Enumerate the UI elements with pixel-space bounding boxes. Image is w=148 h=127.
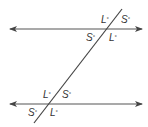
angle-label-top-upper-left: L° [101, 15, 109, 25]
angle-label-top-lower-right: L° [109, 33, 117, 43]
transversal-line [34, 9, 122, 123]
angle-label-top-lower-left: S° [86, 33, 95, 43]
angle-label-bottom-lower-left: S° [28, 108, 37, 118]
angle-label-bottom-lower-right: L° [50, 108, 58, 118]
angle-label-bottom-upper-right: S° [62, 90, 71, 100]
angle-label-top-upper-right: S° [121, 15, 130, 25]
angle-label-bottom-upper-left: L° [43, 90, 51, 100]
